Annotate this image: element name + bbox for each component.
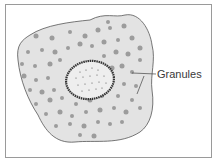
- cell-diagram: [0, 0, 219, 166]
- granules-label: Granules: [157, 68, 202, 80]
